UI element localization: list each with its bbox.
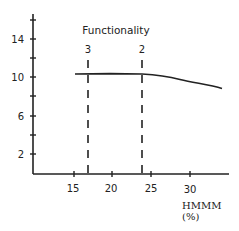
y-tick-label-6: 6: [18, 111, 24, 122]
x-tick-label-30: 30: [184, 184, 197, 195]
x-tick-label-25: 25: [145, 183, 158, 194]
dashed-line-3-label: 3: [85, 44, 91, 55]
x-tick-label-20: 20: [105, 183, 118, 194]
functionality-chart: 14 10 6 2 15 20 25 30 HMMM (%) Functiona…: [0, 0, 239, 231]
chart-title: Functionality: [82, 24, 149, 36]
y-tick-label-14: 14: [11, 34, 24, 45]
x-axis-label-unit: (%): [182, 211, 199, 222]
x-axis-label: HMMM: [182, 200, 221, 211]
axes: [33, 14, 229, 174]
y-tick-label-10: 10: [11, 72, 24, 83]
x-tick-label-15: 15: [67, 183, 80, 194]
y-tick-label-2: 2: [18, 149, 24, 160]
functionality-curve: [75, 74, 222, 89]
dashed-line-2-label: 2: [139, 44, 145, 55]
